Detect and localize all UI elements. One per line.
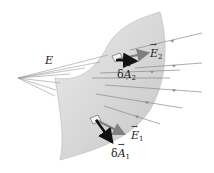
- label-da2: δA2: [117, 69, 136, 82]
- field-label-e: E: [45, 55, 53, 66]
- flux-diagram: [0, 0, 214, 173]
- label-e2: E2: [150, 48, 163, 61]
- label-da1: δA1: [111, 148, 130, 161]
- label-e1: E1: [131, 130, 144, 143]
